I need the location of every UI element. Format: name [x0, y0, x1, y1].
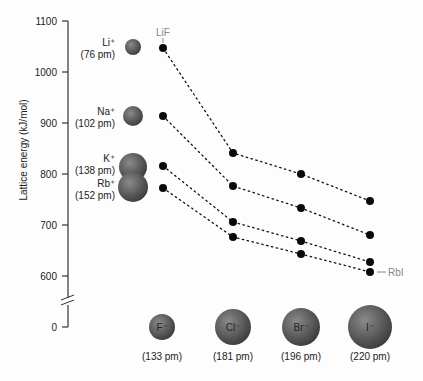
cation-labels: Li⁺ (76 pm) Na⁺ (102 pm) K⁺ (138 pm) Rb⁺… — [75, 37, 115, 201]
point-nacl — [229, 182, 237, 190]
y-tick-labels: 1100 1000 900 800 700 600 0 — [35, 16, 58, 333]
point-libr — [297, 170, 305, 178]
point-lii — [366, 197, 374, 205]
anion-i-radius: (220 pm) — [350, 351, 390, 362]
rb-ion-sphere-icon — [118, 172, 148, 202]
series-rb-line — [163, 188, 370, 272]
point-ki — [366, 258, 374, 266]
anion-f-symbol: F⁻ — [156, 322, 167, 333]
point-kbr — [297, 237, 305, 245]
lattice-energy-chart: Lattice energy (kJ/mol) 1100 1000 900 80… — [0, 0, 423, 381]
anion-cl-radius: (181 pm) — [213, 351, 253, 362]
anion-spheres — [149, 305, 392, 349]
anion-radii: (133 pm) (181 pm) (196 pm) (220 pm) — [142, 351, 390, 362]
cation-li-symbol: Li⁺ — [102, 37, 115, 48]
cation-k-symbol: K⁺ — [103, 153, 115, 164]
tick-700: 700 — [40, 220, 57, 231]
anion-br-radius: (196 pm) — [281, 351, 321, 362]
point-licl — [229, 149, 237, 157]
cation-li-radius: (76 pm) — [81, 49, 115, 60]
series-k-line — [163, 166, 370, 262]
anion-br-symbol: Br⁻ — [294, 322, 309, 333]
anion-i-symbol: I⁻ — [366, 322, 374, 333]
point-naf — [159, 112, 167, 120]
point-lif — [159, 44, 167, 52]
cation-na-symbol: Na⁺ — [97, 106, 115, 117]
tick-800: 800 — [40, 169, 57, 180]
tick-1000: 1000 — [35, 67, 58, 78]
annotations: LiF RbI — [156, 27, 404, 278]
point-kcl — [229, 218, 237, 226]
point-rbbr — [297, 250, 305, 258]
point-rbi — [366, 268, 374, 276]
point-kf — [159, 162, 167, 170]
cation-spheres — [118, 39, 148, 202]
point-nabr — [297, 204, 305, 212]
cation-na-radius: (102 pm) — [75, 118, 115, 129]
data-points — [159, 44, 374, 276]
na-ion-sphere-icon — [123, 106, 143, 126]
tick-1100: 1100 — [35, 16, 57, 27]
point-rbf — [159, 184, 167, 192]
point-rbcl — [229, 233, 237, 241]
li-ion-sphere-icon — [125, 39, 141, 55]
y-axis-label: Lattice energy (kJ/mol) — [18, 99, 29, 200]
y-axis — [62, 21, 68, 327]
series-li-line — [163, 48, 370, 201]
annotation-rbi: RbI — [388, 267, 404, 278]
tick-900: 900 — [40, 118, 57, 129]
series-na-line — [163, 116, 370, 235]
tick-0: 0 — [51, 322, 57, 333]
point-nai — [366, 231, 374, 239]
series-lines — [163, 48, 370, 272]
tick-600: 600 — [40, 271, 57, 282]
cation-k-radius: (138 pm) — [75, 165, 115, 176]
cation-rb-symbol: Rb⁺ — [97, 178, 115, 189]
cation-rb-radius: (152 pm) — [75, 190, 115, 201]
anion-f-radius: (133 pm) — [142, 351, 182, 362]
anion-cl-symbol: Cl⁻ — [226, 322, 240, 333]
anion-symbols: F⁻ Cl⁻ Br⁻ I⁻ — [156, 322, 373, 333]
annotation-lif: LiF — [156, 27, 170, 38]
